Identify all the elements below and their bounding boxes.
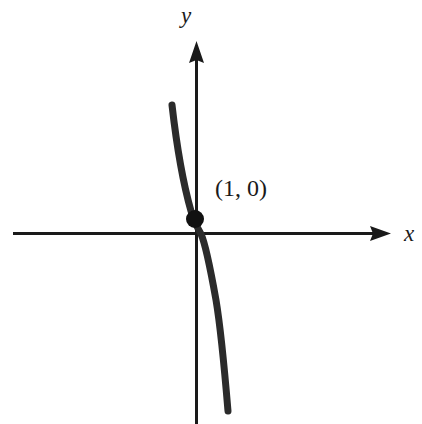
marked-point-dot: [186, 210, 204, 228]
plot-canvas: [0, 0, 422, 424]
y-axis-label: y: [181, 4, 191, 27]
x-axis-label: x: [404, 222, 414, 245]
x-axis-arrow-icon: [370, 226, 391, 241]
marked-point-label: (1, 0): [215, 176, 267, 200]
curve-path: [172, 105, 228, 411]
math-figure: y x (1, 0): [0, 0, 422, 424]
y-axis-arrow-icon: [189, 41, 204, 63]
